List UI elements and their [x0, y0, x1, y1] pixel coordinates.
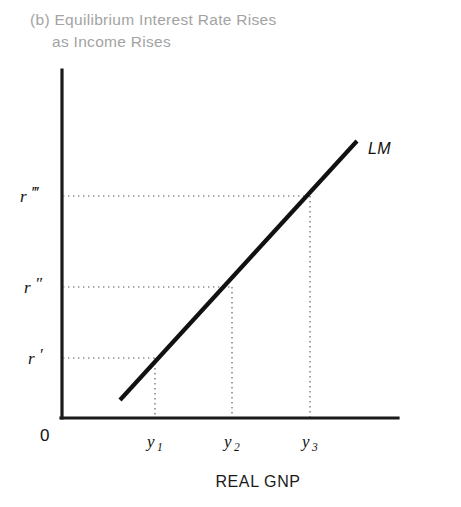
y-tick-base-r-prime: r	[28, 349, 35, 368]
y-tick-primes-r-triple-prime: ‴	[31, 183, 39, 202]
y-tick-primes-r-double-prime: ″	[35, 274, 43, 293]
figure-panel: (b) Equilibrium Interest Rate Rises as I…	[0, 0, 461, 507]
x-axis-title: REAL GNP	[215, 473, 300, 490]
x-tick-sub-y3: 3	[311, 441, 318, 453]
origin-label: 0	[40, 426, 49, 445]
x-tick-base-y3: y	[300, 432, 310, 451]
x-tick-sub-y1: 1	[157, 441, 163, 453]
y-tick-primes-r-prime: ′	[39, 345, 43, 364]
x-tick-sub-y2: 2	[234, 441, 240, 453]
y-tick-base-r-double-prime: r	[24, 278, 31, 297]
x-tick-base-y2: y	[222, 432, 232, 451]
figure-background	[0, 0, 461, 507]
y-tick-base-r-triple-prime: r	[20, 187, 27, 206]
x-tick-base-y1: y	[145, 432, 155, 451]
figure-title-line-1: (b) Equilibrium Interest Rate Rises	[30, 11, 277, 28]
lm-curve-label: LM	[368, 140, 391, 157]
figure-title-line-2: as Income Rises	[52, 33, 171, 50]
